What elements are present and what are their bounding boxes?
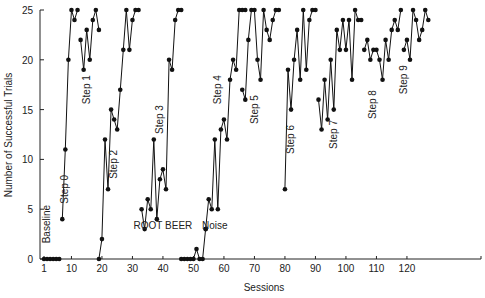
- data-point: [191, 257, 196, 262]
- data-point: [103, 137, 108, 142]
- annotation-step-2: Step 2: [108, 149, 119, 178]
- y-tick-label: 20: [22, 55, 34, 66]
- data-point: [81, 67, 86, 72]
- data-point: [411, 8, 416, 13]
- data-point: [225, 137, 230, 142]
- x-tick-label: 100: [338, 263, 355, 274]
- data-point: [240, 87, 245, 92]
- data-point: [307, 18, 312, 23]
- data-point: [267, 38, 272, 43]
- y-tick-label: 5: [27, 204, 33, 215]
- data-point: [313, 8, 318, 13]
- x-tick-label: 70: [249, 263, 261, 274]
- data-point: [118, 87, 123, 92]
- x-tick-label: 1: [41, 263, 47, 274]
- data-point: [389, 28, 394, 33]
- data-point: [386, 58, 391, 63]
- data-point: [75, 8, 80, 13]
- data-point: [392, 18, 397, 23]
- data-point: [261, 8, 266, 13]
- data-point: [374, 48, 379, 53]
- data-point: [423, 8, 428, 13]
- data-point: [97, 257, 102, 262]
- x-tick-label: 60: [218, 263, 230, 274]
- data-point: [222, 117, 227, 122]
- data-point: [136, 8, 141, 13]
- series-line: [181, 229, 205, 259]
- data-point: [63, 147, 68, 152]
- data-point: [91, 18, 96, 23]
- data-point: [94, 8, 99, 13]
- data-point: [344, 48, 349, 53]
- data-point: [295, 28, 300, 33]
- data-point: [350, 77, 355, 82]
- data-point: [66, 58, 71, 63]
- annotation-step-8: Step 8: [367, 90, 378, 119]
- data-point: [84, 28, 89, 33]
- data-point: [252, 8, 257, 13]
- series-step-7: [316, 8, 363, 132]
- data-point: [167, 58, 172, 63]
- x-axis-title: Sessions: [244, 282, 285, 293]
- data-point: [335, 28, 340, 33]
- data-point: [277, 8, 282, 13]
- data-point: [377, 58, 382, 63]
- data-point: [319, 127, 324, 132]
- data-point: [301, 8, 306, 13]
- series-step-4: [203, 8, 247, 232]
- data-point: [243, 8, 248, 13]
- data-point: [353, 8, 358, 13]
- data-point: [209, 207, 214, 212]
- data-point: [87, 58, 92, 63]
- chart-series: [42, 8, 431, 262]
- x-tick-label: 30: [127, 263, 139, 274]
- data-point: [417, 38, 422, 43]
- annotation-step-9: Step 9: [398, 65, 409, 94]
- data-point: [408, 58, 413, 63]
- y-tick-label: 15: [22, 105, 34, 116]
- data-point: [246, 38, 251, 43]
- data-point: [130, 18, 135, 23]
- data-point: [292, 58, 297, 63]
- data-point: [164, 187, 169, 192]
- x-tick-label: 120: [399, 263, 416, 274]
- x-tick-label: 110: [368, 263, 384, 274]
- series-baseline: [42, 257, 62, 262]
- data-point: [289, 107, 294, 112]
- data-point: [255, 58, 260, 63]
- data-point: [121, 48, 126, 53]
- x-tick-label: 40: [157, 263, 169, 274]
- series-step-1: [78, 8, 101, 72]
- annotation-noise: Noise: [202, 220, 228, 231]
- data-point: [112, 117, 117, 122]
- data-point: [106, 187, 111, 192]
- data-point: [258, 77, 263, 82]
- data-point: [243, 97, 248, 102]
- series-step-5: [240, 8, 281, 102]
- data-point: [359, 18, 364, 23]
- data-point: [322, 77, 327, 82]
- annotation-step-6: Step 6: [285, 125, 296, 154]
- data-point: [145, 197, 150, 202]
- annotation-step-5: Step 5: [249, 95, 260, 124]
- data-point: [127, 48, 132, 53]
- data-point: [405, 38, 410, 43]
- data-point: [234, 67, 239, 72]
- data-point: [380, 77, 385, 82]
- data-point: [347, 18, 352, 23]
- data-point: [109, 107, 114, 112]
- annotation-step-4: Step 4: [212, 75, 223, 104]
- data-point: [216, 207, 221, 212]
- data-point: [148, 207, 153, 212]
- annotation-step-7: Step 7: [328, 120, 339, 149]
- data-point: [231, 58, 236, 63]
- x-tick-label: 10: [66, 263, 78, 274]
- data-point: [213, 137, 218, 142]
- x-tick-label: 50: [188, 263, 200, 274]
- annotation-step-3: Step 3: [154, 105, 165, 134]
- data-point: [228, 77, 233, 82]
- series-line: [285, 10, 316, 189]
- data-point: [341, 18, 346, 23]
- data-point: [304, 67, 309, 72]
- annotation-baseline: Baseline: [41, 205, 52, 244]
